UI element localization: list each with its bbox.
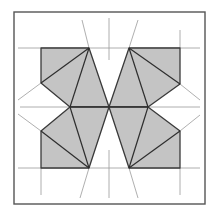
tessellation-diagram [0, 0, 219, 218]
top-right-wing [109, 48, 180, 107]
top-left-wing [41, 48, 109, 107]
bottom-left-wing [41, 107, 109, 168]
bottom-right-wing [109, 107, 180, 168]
